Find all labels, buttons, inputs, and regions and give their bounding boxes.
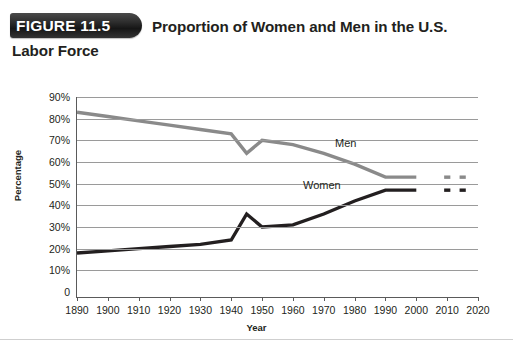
chart-area: Percentage 010%20%30%40%50%60%70%80%90% … — [0, 66, 513, 340]
figure-header: FIGURE 11.5 Proportion of Women and Men … — [0, 0, 513, 66]
projection-dash-women — [444, 188, 450, 191]
figure-title-line-2: Labor Force — [12, 40, 99, 62]
plot-area — [77, 97, 478, 292]
series-lines — [77, 97, 478, 292]
y-axis-tick-label: 50% — [28, 179, 70, 189]
y-axis-tick-label: 30% — [28, 222, 70, 232]
y-axis-tick-labels: 010%20%30%40%50%60%70%80%90% — [20, 66, 70, 340]
x-axis-tick — [478, 297, 479, 301]
y-axis-tick-label: 40% — [28, 200, 70, 210]
y-axis-tick-label: 60% — [28, 157, 70, 167]
x-axis-tick — [108, 297, 109, 301]
y-axis-tick-label: 80% — [28, 114, 70, 124]
x-axis-tick — [355, 297, 356, 301]
gridline — [77, 184, 478, 185]
x-axis-title: Year — [0, 322, 513, 333]
x-axis-tick — [139, 297, 140, 301]
series-label-men: Men — [335, 137, 356, 149]
x-axis-tick — [324, 297, 325, 301]
gridline — [77, 205, 478, 206]
gridline — [77, 140, 478, 141]
y-axis-tick-label: 0 — [28, 287, 70, 297]
series-label-women: Women — [303, 179, 341, 191]
x-axis-tick — [447, 297, 448, 301]
projection-dash-women — [460, 188, 466, 191]
projection-dash-men — [444, 175, 450, 178]
y-axis-tick-label: 90% — [28, 92, 70, 102]
y-axis-line — [76, 97, 77, 298]
x-axis-tick — [262, 297, 263, 301]
projection-dash-men — [460, 175, 466, 178]
gridline — [77, 227, 478, 228]
x-axis-tick — [416, 297, 417, 301]
x-axis-tick — [293, 297, 294, 301]
gridline — [77, 270, 478, 271]
figure-title-line-1: Proportion of Women and Men in the U.S. — [152, 16, 502, 38]
gridline — [77, 119, 478, 120]
y-axis-tick-label: 20% — [28, 244, 70, 254]
x-axis-tick — [77, 297, 78, 301]
gridline — [77, 97, 478, 98]
gridline — [77, 249, 478, 250]
y-axis-tick-label: 10% — [28, 265, 70, 275]
x-axis-tick — [200, 297, 201, 301]
figure-badge-label: FIGURE 11.5 — [16, 17, 110, 35]
x-axis-tick — [231, 297, 232, 301]
x-axis-tick-label: 2020 — [458, 304, 498, 316]
y-axis-tick-label: 70% — [28, 135, 70, 145]
x-axis-tick — [170, 297, 171, 301]
series-line-men — [77, 112, 416, 177]
x-axis-tick — [385, 297, 386, 301]
series-line-women — [77, 190, 416, 253]
figure-container: FIGURE 11.5 Proportion of Women and Men … — [0, 0, 513, 340]
gridline — [77, 162, 478, 163]
x-axis-line — [76, 297, 479, 298]
